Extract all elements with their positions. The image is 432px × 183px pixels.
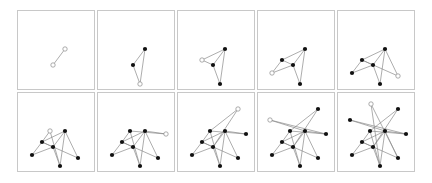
node-marker — [270, 153, 274, 157]
node-marker — [138, 164, 142, 168]
node-marker — [291, 63, 295, 67]
graph-edge — [282, 142, 318, 158]
node-marker — [368, 129, 372, 133]
graph-edge — [213, 109, 238, 147]
node-marker — [371, 63, 375, 67]
node-marker — [350, 71, 354, 75]
graph-edge — [282, 131, 305, 142]
graph-drawing — [18, 93, 96, 173]
node-marker — [211, 63, 215, 67]
node-marker — [40, 140, 44, 144]
node-marker — [218, 82, 222, 86]
graph-edge — [210, 131, 220, 166]
graph-edge — [202, 142, 238, 158]
graph-panel-step-3 — [177, 10, 255, 90]
new-node-marker — [200, 58, 204, 62]
node-marker — [291, 145, 295, 149]
graph-drawing — [338, 93, 416, 173]
graph-panel-step-1 — [17, 10, 95, 90]
new-node-marker — [164, 132, 168, 136]
graph-drawing — [258, 93, 336, 173]
node-marker — [298, 164, 302, 168]
node-marker — [348, 118, 352, 122]
node-marker — [396, 156, 400, 160]
node-marker — [316, 107, 320, 111]
graph-edge — [42, 142, 78, 158]
graph-drawing — [98, 93, 176, 173]
node-marker — [303, 129, 307, 133]
node-marker — [378, 82, 382, 86]
graph-edge — [362, 60, 398, 76]
graph-drawing — [98, 11, 176, 91]
graph-panel-step-9 — [257, 92, 335, 172]
node-marker — [383, 47, 387, 51]
node-marker — [143, 47, 147, 51]
graph-drawing — [178, 93, 256, 173]
node-marker — [30, 153, 34, 157]
node-marker — [378, 164, 382, 168]
graph-panel-step-10 — [337, 92, 415, 172]
node-marker — [200, 140, 204, 144]
new-node-marker — [268, 118, 272, 122]
graph-edge — [202, 131, 225, 142]
node-marker — [324, 132, 328, 136]
node-marker — [223, 129, 227, 133]
graph-edge — [385, 49, 398, 76]
graph-edge — [65, 131, 78, 158]
new-node-marker — [63, 47, 67, 51]
node-marker — [218, 164, 222, 168]
new-node-marker — [236, 107, 240, 111]
new-node-marker — [369, 102, 373, 106]
node-marker — [120, 140, 124, 144]
node-marker — [360, 58, 364, 62]
graph-edge — [130, 131, 140, 166]
graph-edge — [290, 131, 300, 166]
graph-edge — [293, 65, 300, 84]
node-marker — [371, 145, 375, 149]
graph-edge — [293, 109, 318, 147]
node-marker — [350, 153, 354, 157]
node-marker — [298, 82, 302, 86]
graph-edge — [145, 131, 158, 158]
node-marker — [51, 145, 55, 149]
new-node-marker — [138, 82, 142, 86]
graph-edge — [53, 49, 65, 65]
graph-edge — [122, 131, 145, 142]
node-marker — [58, 164, 62, 168]
graph-edge — [213, 65, 220, 84]
node-marker — [383, 129, 387, 133]
graph-panel-step-4 — [257, 10, 335, 90]
node-marker — [211, 145, 215, 149]
node-marker — [190, 153, 194, 157]
node-marker — [208, 129, 212, 133]
node-marker — [396, 107, 400, 111]
graph-edge — [370, 131, 380, 166]
node-marker — [303, 47, 307, 51]
graph-panel-step-2 — [97, 10, 175, 90]
graph-panel-step-6 — [17, 92, 95, 172]
node-marker — [236, 156, 240, 160]
graph-edge — [362, 49, 385, 60]
node-marker — [288, 129, 292, 133]
node-marker — [280, 140, 284, 144]
node-marker — [110, 153, 114, 157]
graph-edge — [133, 65, 140, 84]
node-marker — [76, 156, 80, 160]
graph-growth-grid — [17, 10, 417, 174]
graph-panel-step-7 — [97, 92, 175, 172]
graph-edge — [202, 49, 225, 60]
new-node-marker — [48, 129, 52, 133]
new-node-marker — [270, 71, 274, 75]
graph-edge — [50, 131, 60, 166]
graph-edge — [362, 142, 398, 158]
graph-edge — [225, 131, 238, 158]
node-marker — [244, 132, 248, 136]
new-node-marker — [396, 74, 400, 78]
node-marker — [63, 129, 67, 133]
node-marker — [360, 140, 364, 144]
node-marker — [223, 47, 227, 51]
graph-panel-step-8 — [177, 92, 255, 172]
node-marker — [280, 58, 284, 62]
node-marker — [131, 145, 135, 149]
node-marker — [143, 129, 147, 133]
